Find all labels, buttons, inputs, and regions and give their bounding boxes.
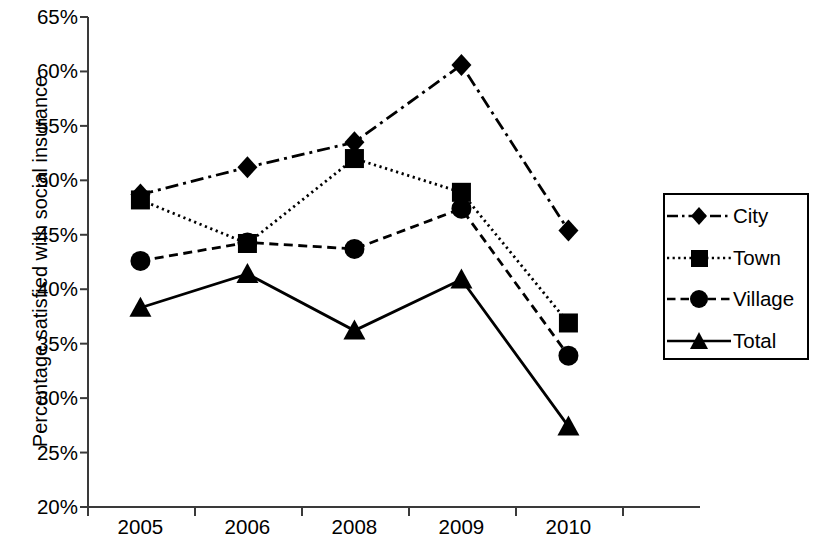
legend-item-town[interactable]: Town <box>665 237 807 279</box>
legend-swatch-town <box>665 243 733 273</box>
legend-item-city[interactable]: City <box>665 195 807 237</box>
legend-label-village: Village <box>733 289 794 309</box>
legend-label-total: Total <box>733 331 776 351</box>
legend-label-city: City <box>733 206 768 226</box>
legend-label-town: Town <box>733 248 781 268</box>
legend: City Town Village <box>663 193 809 360</box>
legend-swatch-village <box>665 284 733 314</box>
series-total <box>129 263 579 435</box>
legend-item-village[interactable]: Village <box>665 279 807 321</box>
series-city <box>130 54 578 242</box>
legend-item-total[interactable]: Total <box>665 320 807 362</box>
legend-swatch-city <box>665 201 733 231</box>
line-chart: Percentage satisfied with social insuran… <box>0 0 816 539</box>
legend-swatch-total <box>665 326 733 356</box>
series-village <box>130 199 578 366</box>
